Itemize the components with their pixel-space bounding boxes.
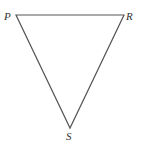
vertex-label-r: R [125, 10, 133, 22]
triangle-prs [16, 15, 124, 128]
triangle-diagram: P R S [0, 0, 143, 144]
vertex-label-s: S [66, 130, 72, 142]
vertex-label-p: P [3, 10, 11, 22]
